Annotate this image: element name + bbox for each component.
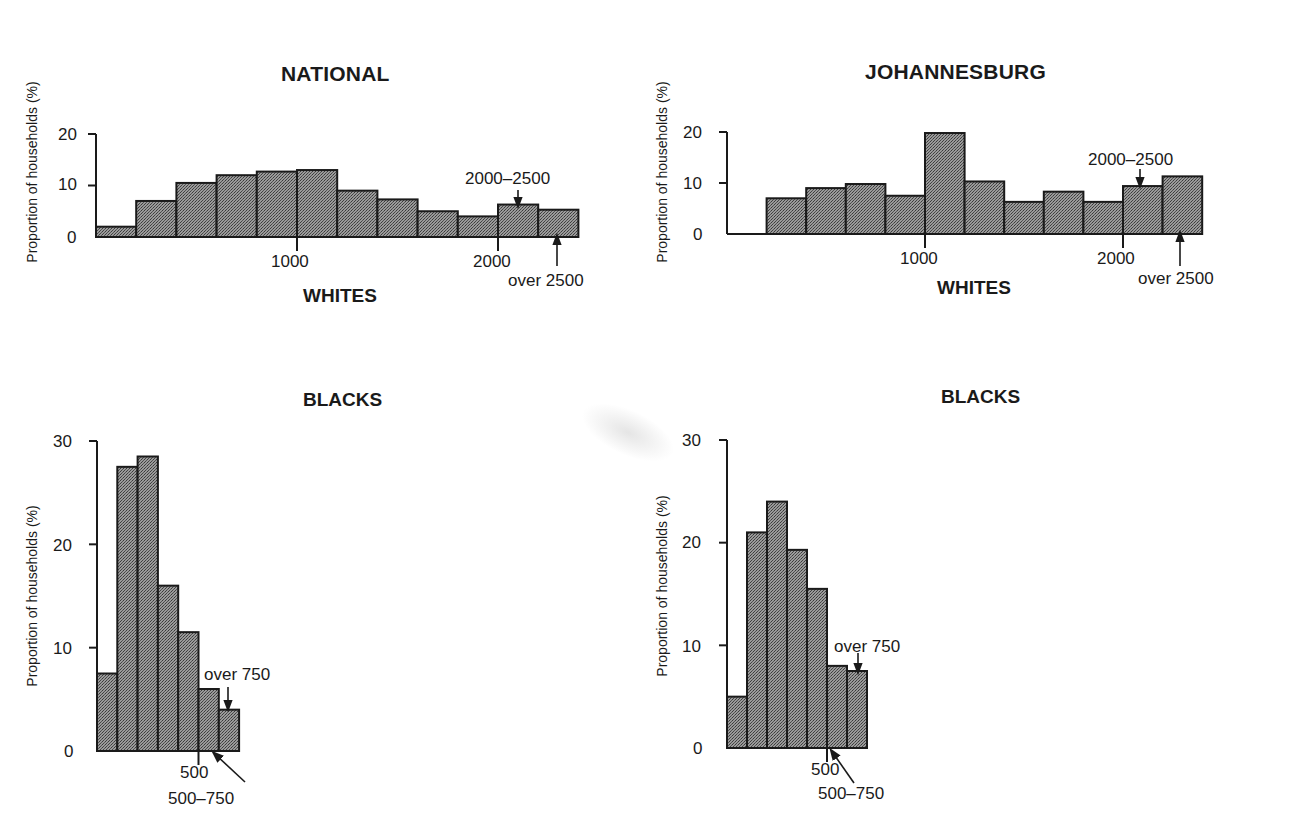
bar (806, 188, 846, 234)
bar (767, 198, 807, 234)
nw-x-axis-label: WHITES (303, 285, 377, 307)
bar (158, 586, 178, 751)
jw-annotation-2000-2500: 2000–2500 (1088, 150, 1173, 170)
bar (747, 532, 767, 748)
bar (807, 589, 827, 748)
jb-xtick-500: 500 (811, 760, 839, 780)
nw-annotation-over-2500: over 2500 (508, 271, 584, 291)
national-whites-y-axis-label: Proportion of households (%) (24, 62, 40, 282)
bar (847, 671, 867, 748)
bar (217, 175, 257, 237)
bar (498, 205, 538, 237)
jw-x-axis-label: WHITES (937, 277, 1011, 299)
jw-ytick-10: 10 (683, 174, 702, 194)
nb-annotation-500-750: 500–750 (168, 789, 234, 809)
bar (377, 199, 417, 237)
bar (1123, 186, 1163, 234)
johannesburg-whites-y-axis-label: Proportion of households (%) (654, 62, 670, 282)
johannesburg-blacks-y-axis-label: Proportion of households (%) (654, 476, 670, 696)
jb-ytick-10: 10 (682, 637, 701, 657)
nw-xtick-2000: 2000 (473, 252, 511, 272)
bar (846, 184, 886, 234)
nb-ytick-0: 0 (64, 742, 73, 762)
johannesburg-title: JOHANNESBURG (865, 60, 1046, 84)
nw-ytick-20: 20 (58, 125, 77, 145)
jw-ytick-0: 0 (693, 225, 702, 245)
bar (138, 457, 158, 752)
bar (787, 550, 807, 748)
bar (885, 196, 925, 234)
nb-ytick-10: 10 (53, 639, 72, 659)
national-title: NATIONAL (281, 62, 390, 86)
bar (199, 689, 219, 751)
jb-ytick-0: 0 (693, 739, 702, 759)
jb-annotation-500-750: 500–750 (818, 784, 884, 804)
nb-annotation-over-750: over 750 (204, 665, 270, 685)
nw-ytick-10: 10 (58, 175, 77, 195)
bar (458, 216, 498, 237)
bar (117, 467, 137, 751)
bar (97, 674, 117, 752)
national-blacks-title: BLACKS (303, 389, 382, 411)
johannesburg-blacks-title: BLACKS (941, 386, 1020, 408)
bar (727, 697, 747, 748)
jw-ytick-20: 20 (683, 123, 702, 143)
jb-annotation-over-750: over 750 (834, 637, 900, 657)
bar (925, 133, 965, 234)
bar (965, 181, 1005, 234)
johannesburg-blacks-chart (719, 440, 867, 783)
jw-xtick-1000: 1000 (900, 249, 938, 269)
bar (96, 227, 136, 237)
national-whites-chart (88, 134, 578, 266)
bar (827, 666, 847, 748)
bar (1083, 202, 1123, 234)
bar (219, 710, 239, 751)
jb-ytick-20: 20 (682, 533, 701, 553)
bar (297, 170, 337, 237)
bar (136, 201, 176, 237)
jw-annotation-over-2500: over 2500 (1138, 269, 1214, 289)
nw-xtick-1000: 1000 (271, 252, 309, 272)
nw-ytick-0: 0 (67, 228, 76, 248)
bar (176, 183, 216, 237)
nb-xtick-500: 500 (180, 763, 208, 783)
national-blacks-chart (89, 441, 245, 782)
nb-ytick-30: 30 (53, 432, 72, 452)
annotation-arrow-icon (216, 755, 245, 782)
bar (538, 210, 578, 237)
national-blacks-y-axis-label: Proportion of households (%) (24, 486, 40, 706)
jw-xtick-2000: 2000 (1097, 249, 1135, 269)
nw-annotation-2000-2500: 2000–2500 (465, 169, 550, 189)
bar (337, 191, 377, 237)
bar (178, 632, 198, 751)
bar (418, 211, 458, 237)
chart-canvas (0, 0, 1295, 832)
bar (257, 172, 297, 237)
bar (767, 502, 787, 748)
nb-ytick-20: 20 (53, 536, 72, 556)
jb-ytick-30: 30 (682, 431, 701, 451)
bar (1163, 176, 1203, 234)
bar (1004, 202, 1044, 234)
bar (1044, 192, 1084, 234)
